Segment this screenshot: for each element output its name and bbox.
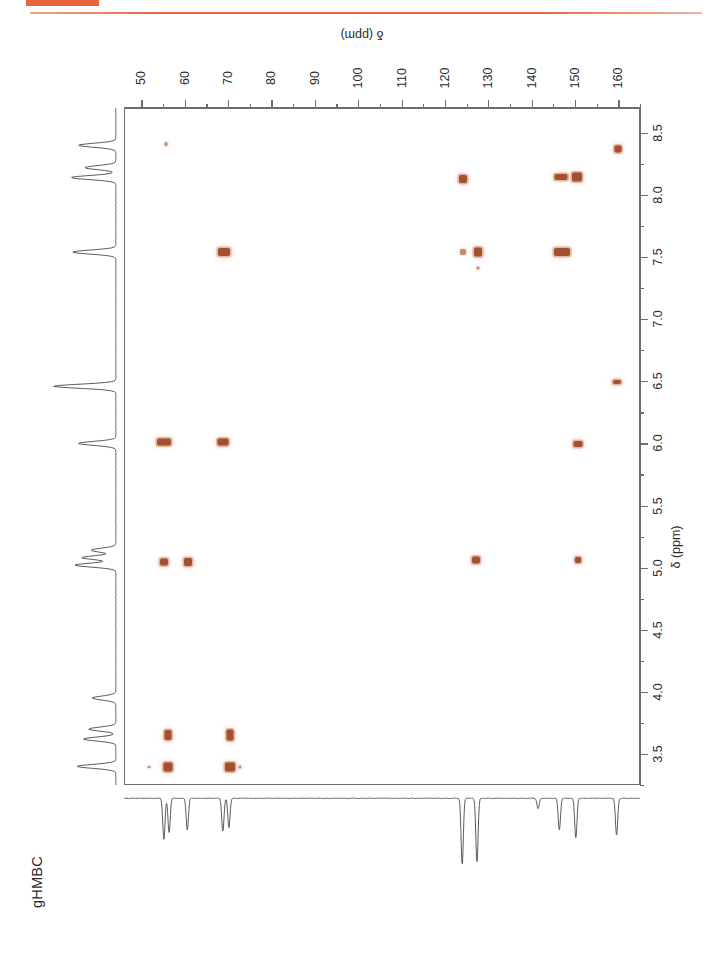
proton-axis-line <box>640 108 641 785</box>
proton-axis-tick-minor <box>640 412 644 413</box>
carbon-axis-tick-major <box>228 100 229 108</box>
proton-axis-tick-label: 7.0 <box>651 302 665 336</box>
proton-axis-tick-label: 4.5 <box>651 613 665 647</box>
carbon-axis-tick-major <box>488 100 489 108</box>
proton-axis-tick-major <box>640 754 648 755</box>
cross-peak <box>225 763 235 772</box>
proton-axis-tick-label: 5.5 <box>651 489 665 523</box>
carbon-projection-trace <box>124 792 640 870</box>
carbon-axis-tick-major <box>141 100 142 108</box>
proton-axis-tick-minor <box>640 785 644 786</box>
carbon-axis-tick-label: 50 <box>134 61 148 95</box>
proton-axis-tick-label: 5.0 <box>651 551 665 585</box>
carbon-axis-tick-label: 140 <box>525 61 539 95</box>
cross-peak <box>218 248 230 256</box>
carbon-axis-tick-major <box>358 100 359 108</box>
proton-axis-tick-major <box>640 133 648 134</box>
top-divider-rule <box>30 12 702 14</box>
cross-peak <box>165 142 168 146</box>
proton-axis-tick-major <box>640 381 648 382</box>
proton-axis-tick-major <box>640 630 648 631</box>
carbon-axis-tick-label: 70 <box>221 61 235 95</box>
proton-axis-tick-minor <box>640 288 644 289</box>
cross-peak <box>217 438 228 445</box>
carbon-axis-tick-major <box>445 100 446 108</box>
carbon-axis-tick-major <box>532 100 533 108</box>
proton-axis-tick-minor <box>640 226 644 227</box>
cross-peak <box>459 175 467 183</box>
proton-axis-tick-major <box>640 257 648 258</box>
figure-title: gHMBC <box>29 827 45 937</box>
carbon-axis-tick-major <box>315 100 316 108</box>
carbon-projection-path <box>124 798 640 864</box>
carbon-axis-tick-label: 120 <box>438 61 452 95</box>
proton-axis-tick-label: 8.0 <box>651 178 665 212</box>
cross-peak <box>227 730 234 741</box>
cross-peak <box>160 559 168 566</box>
carbon-axis-tick-label: 150 <box>568 61 582 95</box>
proton-projection-path <box>54 108 116 785</box>
proton-axis-tick-label: 7.5 <box>651 240 665 274</box>
cross-peak <box>554 174 567 180</box>
proton-projection-trace <box>28 108 120 785</box>
cross-peak <box>460 249 466 255</box>
proton-axis-tick-minor <box>640 350 644 351</box>
carbon-axis-tick-label: 90 <box>308 61 322 95</box>
proton-axis-tick-minor <box>640 723 644 724</box>
carbon-projection-svg <box>124 792 640 870</box>
cross-peak <box>157 438 171 445</box>
carbon-axis-tick-label: 60 <box>178 61 192 95</box>
carbon-axis-tick-major <box>402 100 403 108</box>
proton-axis-tick-minor <box>640 599 644 600</box>
carbon-axis-tick-major <box>618 100 619 108</box>
cross-peak <box>238 766 241 769</box>
proton-axis-tick-label: 6.0 <box>651 426 665 460</box>
proton-axis-tick-major <box>640 692 648 693</box>
proton-axis-tick-label: 3.5 <box>651 737 665 771</box>
proton-axis-tick-minor <box>640 164 644 165</box>
proton-axis-tick-label: 6.5 <box>651 364 665 398</box>
proton-axis-title: δ (ppm) <box>669 507 683 587</box>
cross-peak <box>575 557 581 563</box>
carbon-axis-tick-major <box>185 100 186 108</box>
cross-peak <box>472 556 480 563</box>
carbon-axis-tick-label: 80 <box>264 61 278 95</box>
cross-peak <box>165 730 172 740</box>
carbon-axis-tick-major <box>575 100 576 108</box>
cross-peak <box>164 763 173 772</box>
carbon-axis-tick-label: 130 <box>481 61 495 95</box>
plot-area[interactable] <box>124 108 640 785</box>
carbon-axis-title: δ (ppm) <box>322 28 402 42</box>
proton-axis-tick-major <box>640 568 648 569</box>
proton-axis-tick-major <box>640 319 648 320</box>
cross-peak <box>184 558 192 566</box>
proton-axis-tick-minor <box>640 537 644 538</box>
proton-axis-tick-major <box>640 195 648 196</box>
cross-peak <box>613 380 621 384</box>
carbon-axis-tick-label: 160 <box>611 61 625 95</box>
carbon-axis-tick-major <box>271 100 272 108</box>
carbon-axis-tick-label: 100 <box>351 61 365 95</box>
cross-peak <box>572 173 582 182</box>
top-accent-bar <box>26 0 99 6</box>
cross-peak <box>147 766 150 768</box>
cross-peak <box>477 267 480 270</box>
cross-peak <box>554 248 570 256</box>
carbon-axis-tick-label: 110 <box>395 61 409 95</box>
proton-axis-tick-label: 8.5 <box>651 116 665 150</box>
cross-peak <box>474 247 482 256</box>
proton-axis <box>640 108 648 785</box>
proton-axis-tick-label: 4.0 <box>651 675 665 709</box>
cross-peak <box>615 145 622 152</box>
proton-axis-tick-minor <box>640 661 644 662</box>
cross-peak <box>574 441 583 447</box>
proton-axis-tick-major <box>640 506 648 507</box>
proton-projection-svg <box>28 108 120 785</box>
proton-axis-tick-minor <box>640 474 644 475</box>
carbon-axis <box>124 100 640 108</box>
proton-axis-tick-major <box>640 443 648 444</box>
